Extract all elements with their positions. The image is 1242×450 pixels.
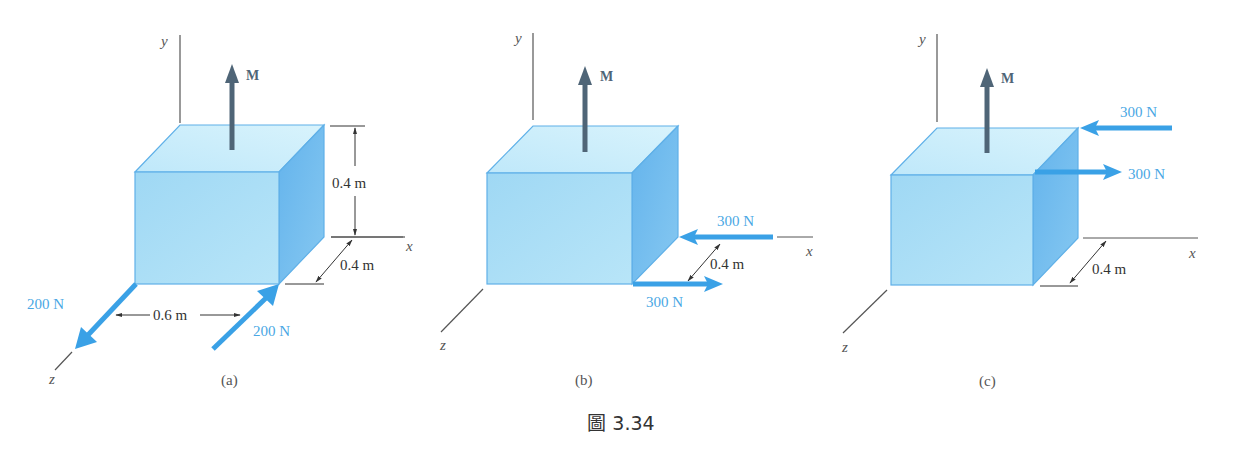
panel-label: (b)	[575, 372, 593, 389]
moment-label: M	[1001, 71, 1014, 86]
z-axis-label: z	[439, 337, 446, 353]
force-arrow-left	[75, 284, 136, 349]
panel-a: y M 0.4 m x 0.4 m 200 N	[27, 33, 413, 389]
y-axis-label: y	[513, 30, 522, 46]
z-axis	[55, 352, 72, 370]
moment-label: M	[246, 68, 259, 83]
z-axis	[441, 289, 483, 332]
depth-dimension-label: 0.4 m	[340, 257, 375, 273]
height-dimension-label: 0.4 m	[332, 175, 367, 191]
force-label-right: 200 N	[253, 323, 290, 339]
force-label-left: 200 N	[27, 296, 64, 312]
force-arrow-right	[213, 284, 279, 349]
depth-dimension-label: 0.4 m	[1092, 261, 1127, 277]
x-axis-label: x	[805, 243, 813, 259]
x-axis-label: x	[405, 238, 413, 254]
width-dimension-label: 0.6 m	[153, 307, 188, 323]
y-axis-label: y	[917, 31, 926, 47]
force-arrow-back	[679, 229, 773, 245]
cube-front-face	[487, 173, 632, 284]
panel-label: (a)	[221, 372, 238, 389]
figure-caption: 圖 3.34	[0, 408, 1242, 435]
force-label-front: 300 N	[646, 294, 683, 310]
cube-front-face	[135, 172, 279, 284]
cube-front-face	[891, 175, 1033, 285]
force-label-front: 300 N	[1128, 166, 1165, 182]
force-label-back: 300 N	[717, 213, 754, 229]
z-axis	[843, 290, 887, 333]
z-axis-label: z	[841, 339, 848, 355]
force-label-back: 300 N	[1120, 104, 1157, 120]
y-axis-label: y	[159, 33, 168, 49]
panel-label: (c)	[979, 373, 996, 390]
z-axis-label: z	[48, 371, 55, 387]
panel-b: y M 300 N x 0.4 m 300 N z (b)	[439, 30, 813, 389]
force-arrow-front	[633, 276, 723, 292]
depth-dimension-label: 0.4 m	[710, 256, 745, 272]
x-axis-label: x	[1188, 245, 1196, 261]
moment-label: M	[600, 69, 613, 84]
force-arrow-back	[1080, 120, 1172, 136]
panel-c: y M 300 N 300 N x 0.4 m z (c)	[841, 31, 1198, 390]
figure-3-34: y M 0.4 m x 0.4 m 200 N	[0, 0, 1242, 450]
